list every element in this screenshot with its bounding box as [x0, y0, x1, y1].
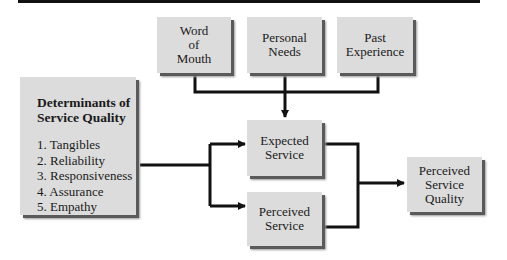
- determinants-box: Determinants of Service Quality 1. Tangi…: [20, 77, 136, 215]
- perceived-service-quality-box: Perceived Service Quality: [407, 157, 482, 212]
- box-line: Perceived: [259, 205, 310, 219]
- expected-service-box: Expected Service: [247, 120, 322, 176]
- determinant-item: 4. Assurance: [37, 184, 132, 200]
- box-line: Experience: [346, 45, 404, 59]
- determinants-title: Service Quality: [37, 110, 126, 125]
- box-line: Mouth: [177, 52, 212, 66]
- box-line: Expected: [260, 134, 308, 148]
- box-line: Quality: [425, 192, 464, 206]
- determinant-item: 3. Responsiveness: [37, 168, 132, 184]
- determinant-item: 1. Tangibles: [37, 137, 132, 153]
- personal-needs-box: Personal Needs: [247, 17, 322, 73]
- determinants-title: Determinants of: [37, 95, 130, 110]
- box-line: Needs: [268, 45, 301, 59]
- box-line: Word: [180, 24, 209, 38]
- box-line: Service: [265, 148, 304, 162]
- box-line: Personal: [262, 31, 307, 45]
- determinants-list: 1. Tangibles 2. Reliability 3. Responsiv…: [37, 137, 132, 215]
- past-experience-box: Past Experience: [337, 17, 413, 73]
- box-line: Service: [265, 219, 304, 233]
- word-of-mouth-box: Word of Mouth: [157, 17, 231, 73]
- box-line: Perceived: [419, 164, 470, 178]
- box-line: of: [189, 38, 200, 52]
- determinant-item: 5. Empathy: [37, 199, 132, 215]
- perceived-service-box: Perceived Service: [247, 192, 322, 246]
- determinant-item: 2. Reliability: [37, 153, 132, 169]
- box-line: Past: [364, 31, 386, 45]
- box-line: Service: [425, 178, 464, 192]
